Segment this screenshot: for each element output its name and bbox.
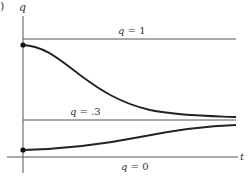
initial-point-upper (20, 42, 25, 47)
label-q-equals-0: q = 0 (121, 161, 149, 172)
t-axis-label: t (240, 151, 245, 162)
label-q-equals-point-3-eq: = .3 (76, 106, 100, 117)
q-axis-label: q (19, 1, 26, 14)
initial-point-lower (20, 147, 25, 152)
curve-rising-solution (23, 125, 236, 150)
panel-label: ) (0, 0, 4, 13)
label-q-equals-1: q = 1 (118, 25, 146, 36)
label-q-equals-0-eq: = 0 (127, 161, 148, 172)
label-q-equals-point-3: q = .3 (70, 106, 101, 117)
solution-curves-diagram: ) q t q = 1 q = .3 q = 0 (0, 0, 249, 181)
label-q-equals-1-eq: = 1 (124, 25, 145, 36)
curve-decaying-solution (23, 45, 236, 117)
